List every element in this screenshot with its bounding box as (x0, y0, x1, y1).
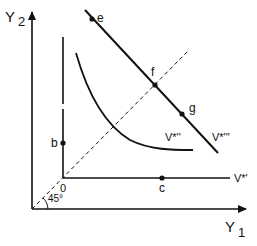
point-f-label: f (151, 65, 155, 79)
point-g (179, 111, 184, 116)
origin-label: 0 (60, 182, 66, 194)
v1-label: V*' (234, 172, 248, 184)
point-c-label: c (159, 181, 165, 195)
point-b-label: b (51, 136, 58, 150)
point-b (60, 140, 65, 145)
point-e-label: e (97, 11, 104, 25)
y1-axis-label: Y1 (225, 218, 245, 240)
y2-axis-label: Y2 (5, 8, 25, 29)
point-e (89, 16, 94, 21)
point-f (152, 82, 157, 87)
point-g-label: g (189, 101, 196, 115)
point-c (159, 175, 164, 180)
welfare-diagram: Y2 Y1 45° V*' 0 V*'' V*''' e f g b c (0, 0, 257, 246)
v2-label: V*'' (165, 131, 181, 143)
v3-label: V*''' (212, 131, 230, 143)
angle-label: 45° (48, 193, 63, 204)
v3-line (85, 10, 218, 153)
